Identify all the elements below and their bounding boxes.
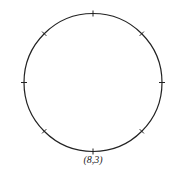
caption-label: (8,3) (83, 154, 103, 166)
tick-marks (21, 11, 165, 155)
diagram-canvas: (8,3) (0, 0, 177, 179)
